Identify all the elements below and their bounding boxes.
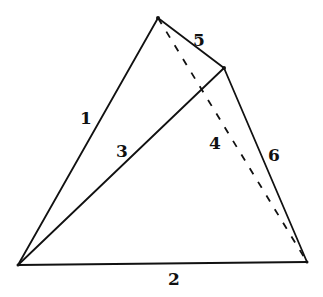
edge-label-3: 3 — [116, 141, 128, 161]
edge-3 — [18, 68, 224, 265]
edge-label-2: 2 — [168, 269, 180, 289]
edge-2 — [18, 262, 307, 265]
edge-label-6: 6 — [268, 145, 280, 165]
edge-label-4: 4 — [209, 133, 221, 153]
edge-1 — [18, 18, 158, 265]
vertex-top — [156, 16, 160, 20]
vertex-bottom-right — [306, 261, 309, 264]
edge-6 — [224, 68, 307, 262]
edge-label-1: 1 — [80, 108, 92, 128]
vertex-right — [222, 66, 226, 70]
edge-4-dashed — [158, 18, 307, 262]
edge-5 — [158, 18, 224, 68]
edge-label-5: 5 — [193, 30, 205, 50]
tetrahedron-diagram: 1 2 3 4 5 6 — [0, 0, 323, 297]
vertex-bottom-left — [17, 264, 20, 267]
